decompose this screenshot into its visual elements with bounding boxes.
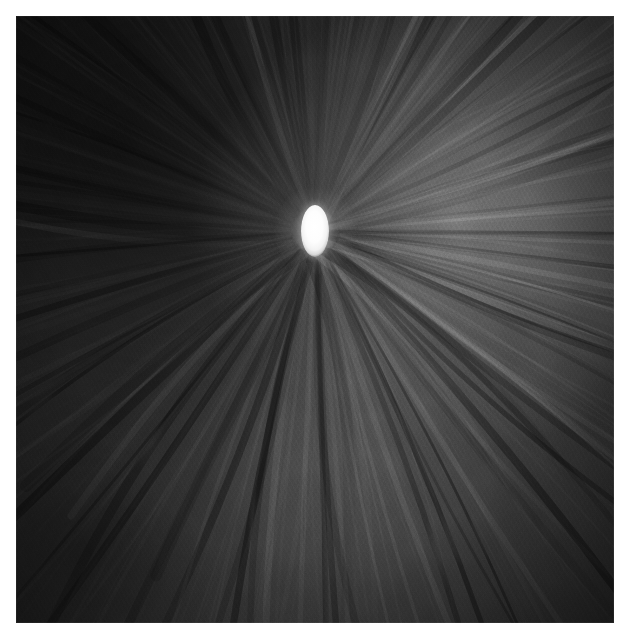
nerve-fibre-ray [16, 242, 291, 563]
nerve-fibre-ray [321, 256, 509, 623]
nerve-fibre-ray [337, 245, 614, 596]
nerve-fibre-ray [277, 257, 317, 623]
nerve-fibre-ray [198, 16, 310, 206]
nerve-fibre-ray [70, 16, 301, 209]
nerve-fibre-ray [341, 231, 614, 235]
nerve-fibre-ray [16, 54, 290, 226]
nerve-fibre-ray [326, 16, 467, 208]
nerve-fibre-ray [16, 16, 296, 213]
nerve-fibre-ray [16, 68, 290, 223]
nerve-fibre-ray [330, 252, 491, 485]
nerve-fibre-ray [132, 255, 306, 623]
nerve-fibre-ray [338, 39, 614, 219]
nerve-fibre-ray [339, 242, 614, 541]
nerve-fibre-ray [339, 16, 614, 221]
nerve-fibre-ray [330, 16, 614, 210]
nerve-fibre-ray [341, 236, 615, 382]
nerve-fibre-ray [326, 255, 615, 623]
nerve-fibre-ray [333, 16, 564, 213]
nerve-fibre-ray [16, 243, 292, 614]
luminance-field-layer [16, 16, 614, 623]
nerve-fibre-ray [327, 254, 614, 623]
nerve-fibre-ray [16, 16, 294, 216]
nerve-fibre-ray [322, 256, 556, 623]
nerve-fibre-ray [16, 245, 293, 586]
nerve-fibre-ray [16, 238, 290, 320]
nerve-fibre-ray [16, 16, 293, 217]
nerve-fibre-ray [340, 239, 614, 432]
nerve-fibre-ray [16, 16, 292, 218]
nerve-fibre-ray [270, 257, 314, 623]
nerve-fibre-ray [20, 16, 304, 207]
nerve-fibre-ray [333, 16, 614, 212]
nerve-fibre-ray [16, 239, 290, 492]
nerve-fibre-ray [341, 179, 614, 229]
nerve-fibre-ray [279, 16, 313, 205]
nerve-fibre-ray [148, 256, 308, 623]
nerve-fibre-ray [338, 244, 615, 589]
nerve-fibre-ray [16, 245, 293, 623]
nerve-fibre-ray [16, 252, 300, 623]
nerve-fibre-ray [16, 239, 290, 529]
nerve-fibre-ray [132, 256, 306, 624]
nerve-fibre-ray [337, 77, 575, 218]
nerve-fibre-ray [317, 16, 383, 205]
nerve-fibre-ray [16, 72, 290, 223]
nerve-fibre-ray [16, 236, 289, 376]
nerve-fibre-ray [162, 16, 309, 206]
nerve-fibre-ray [335, 247, 614, 623]
nerve-fibre-ray [16, 16, 300, 210]
nerve-fibre-ray [16, 253, 302, 623]
nerve-fibre-ray [16, 16, 294, 216]
nerve-fibre-ray [340, 16, 614, 223]
nerve-fibre-ray [326, 254, 614, 623]
nerve-fibre-ray [318, 257, 377, 623]
nerve-fibre-ray [286, 16, 314, 205]
nerve-fibre-ray [339, 16, 614, 221]
nerve-fibre-ray [340, 238, 614, 407]
nerve-fibre-ray [340, 38, 614, 225]
nerve-fibre-ray [335, 16, 614, 215]
nerve-fibre-ray [16, 246, 294, 623]
micrograph-plate [16, 16, 614, 623]
nerve-fibre-ray [16, 252, 299, 623]
nerve-fibre-ray [340, 16, 615, 222]
nerve-fibre-ray [317, 257, 384, 623]
nerve-fibre-ray [339, 240, 614, 489]
nerve-fibre-ray [316, 16, 332, 205]
nerve-fibre-ray [16, 246, 294, 623]
image-viewport: Optic nerve head micrograph Grayscale mi… [0, 0, 629, 639]
nerve-fibre-ray [341, 233, 614, 285]
nerve-fibre-ray [125, 16, 308, 206]
image-alt-text: Grayscale micrograph of an optic nerve h… [0, 16, 1, 17]
plate-edge-border [16, 16, 614, 623]
nerve-fibre-ray [341, 186, 614, 230]
nerve-fibre-ray [340, 16, 614, 224]
nerve-fibre-ray [250, 257, 312, 623]
nerve-fibre-ray [329, 16, 614, 209]
nerve-fibre-ray [16, 252, 299, 624]
nerve-fibre-ray [331, 16, 614, 211]
nerve-fibre-ray [339, 16, 614, 221]
page-title: Optic nerve head micrograph [0, 21, 1, 22]
nerve-fibre-ray [16, 241, 291, 465]
nerve-fibre-ray [337, 16, 614, 217]
nerve-fibre-ray [128, 16, 305, 207]
nerve-fibre-ray [16, 81, 290, 225]
nerve-fibre-ray [332, 251, 614, 623]
nerve-fibre-ray [16, 16, 297, 212]
nerve-fibre-ray [336, 246, 614, 623]
nerve-fibre-ray [16, 16, 292, 218]
nerve-fibre-ray [319, 257, 372, 570]
nerve-fibre-ray [316, 16, 345, 205]
nerve-fibre-ray [16, 125, 289, 227]
nerve-fibre-ray [293, 257, 314, 623]
nerve-fibre-ray [16, 234, 289, 287]
nerve-fibre-ray [336, 246, 614, 623]
nerve-fibre-ray [16, 16, 295, 214]
nerve-fibre-ray [331, 16, 614, 211]
nerve-fibre-ray [16, 16, 294, 216]
nerve-fibre-ray [338, 16, 614, 218]
nerve-fibre-ray [315, 257, 328, 623]
nerve-fibre-ray [341, 83, 614, 227]
